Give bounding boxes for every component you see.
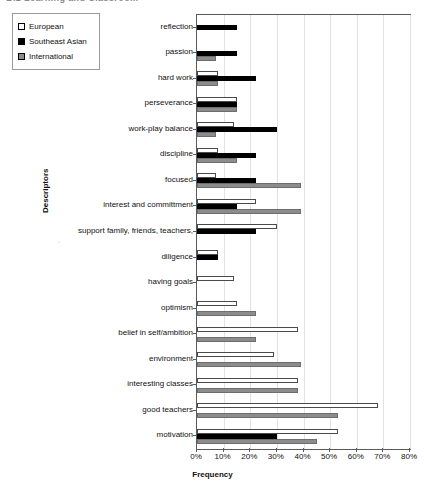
bar: [197, 362, 301, 367]
clipped-header-text: B.2 Learning and Classroom: [6, 0, 138, 3]
bar-group: [197, 347, 410, 373]
x-axis-tick-label: 40%: [294, 452, 310, 461]
bar: [197, 255, 218, 260]
x-axis-tick-label: 0%: [190, 452, 202, 461]
bar: [197, 352, 274, 357]
y-axis-tick-label: diligence: [60, 252, 193, 261]
x-axis-tick-label: 30%: [268, 452, 284, 461]
bar-group: [197, 321, 410, 347]
bar: [197, 158, 237, 163]
square-outline-swatch: [18, 23, 25, 30]
bar-group: [197, 15, 410, 41]
bar: [197, 327, 298, 332]
y-axis-tick-label: having goals: [60, 277, 193, 286]
y-axis-tick-label: passion: [60, 47, 193, 56]
bar: [197, 413, 338, 418]
bar: [197, 183, 301, 188]
y-axis-tick-label: work-play balance: [60, 124, 193, 133]
bar-group: [197, 270, 410, 296]
bar-group: [197, 117, 410, 143]
bar: [197, 337, 256, 342]
bar: [197, 209, 301, 214]
clipped-header-strip: B.2 Learning and Classroom: [0, 0, 425, 9]
x-axis-tick-label: 10%: [215, 452, 231, 461]
y-axis-title: Descriptors: [41, 169, 50, 213]
bar: [197, 301, 237, 306]
bar-group: [197, 398, 410, 424]
x-axis-tick-label: 80%: [401, 452, 417, 461]
bar: [197, 403, 378, 408]
bar-group: [197, 66, 410, 92]
bar-group: [197, 219, 410, 245]
bar-group: [197, 194, 410, 220]
y-axis-tick-label: discipline: [60, 149, 193, 158]
bar-group: [197, 296, 410, 322]
legend-item-label: European: [29, 22, 64, 31]
bar: [197, 229, 256, 234]
y-axis-tick-label: interest and committment: [60, 200, 193, 209]
bar: [197, 276, 234, 281]
y-axis-tick-label: interesting classes: [60, 379, 193, 388]
y-axis-tick-label: hard work: [60, 73, 193, 82]
bar-group: [197, 143, 410, 169]
bar: [197, 107, 237, 112]
bar: [197, 311, 256, 316]
y-axis-tick-labels: reflectionpassionhard workperseverancewo…: [60, 14, 193, 448]
bar: [197, 388, 298, 393]
y-axis-tick-label: belief in self/ambition: [60, 328, 193, 337]
bar-group: [197, 245, 410, 271]
y-axis-tick-label: focused: [60, 175, 193, 184]
y-axis-tick-label: optimism: [60, 303, 193, 312]
bar-groups: [197, 15, 410, 449]
bar-group: [197, 423, 410, 449]
y-axis-tick-label: good teachers: [60, 405, 193, 414]
gridline: [410, 15, 411, 449]
x-axis-tick-label: 70%: [374, 452, 390, 461]
x-axis-tick-label: 20%: [241, 452, 257, 461]
square-gray-swatch: [18, 53, 25, 60]
bar: [197, 25, 237, 30]
x-axis-title: Frequency: [0, 470, 425, 479]
bar-group: [197, 41, 410, 67]
bar-group: [197, 168, 410, 194]
bar: [197, 439, 317, 444]
bar: [197, 81, 218, 86]
bar: [197, 56, 216, 61]
y-axis-tick-label: environment: [60, 354, 193, 363]
x-axis-tick-label: 60%: [348, 452, 364, 461]
square-filled-swatch: [18, 38, 25, 45]
y-axis-tick-label: motivation: [60, 430, 193, 439]
bar: [197, 132, 216, 137]
bar-group: [197, 372, 410, 398]
y-axis-tick-label: support family, friends, teachers,: [60, 226, 193, 235]
x-axis-tick-label: 50%: [321, 452, 337, 461]
bar: [197, 378, 298, 383]
y-axis-tick-label: perseverance: [60, 98, 193, 107]
bar-group: [197, 92, 410, 118]
plot-area: [196, 14, 411, 450]
y-axis-tick-label: reflection: [60, 22, 193, 31]
x-axis-tick-labels: 0%10%20%30%40%50%60%70%80%: [196, 452, 409, 466]
